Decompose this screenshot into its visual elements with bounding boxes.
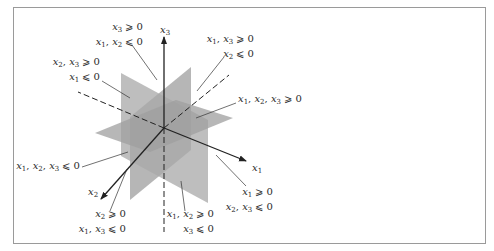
x1-axis-label: x1 xyxy=(252,162,262,177)
octant-label-top-right: x1, x3 ⩾ 0 x2 ⩽ 0 xyxy=(194,33,254,63)
octant-label-top-back-left: x3 ⩾ 0 x1, x2 ⩽ 0 xyxy=(83,21,143,51)
octant-label-top-front: x1, x2, x3 ⩾ 0 xyxy=(238,93,302,108)
x3-axis-label: x3 xyxy=(160,24,170,39)
octant-label-bottom-left: x2 ⩾ 0 x1, x3 ⩽ 0 xyxy=(56,208,126,238)
x2-axis-label: x2 xyxy=(88,186,98,201)
octant-label-bottom-front: x1, x2 ⩾ 0 x3 ⩽ 0 xyxy=(144,208,214,238)
octant-label-top-left: x2, x3 ⩾ 0 x1 ⩽ 0 xyxy=(30,56,100,86)
octant-label-bottom-back: x1, x2, x3 ⩽ 0 xyxy=(0,160,80,175)
